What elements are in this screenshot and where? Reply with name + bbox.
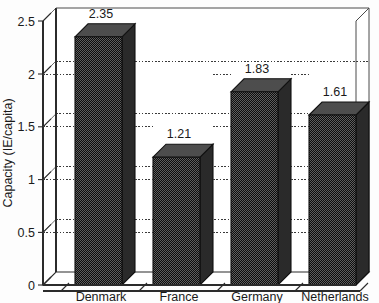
y-tick-label: 1 [28,173,35,187]
bar-value-label: 2.35 [89,7,113,21]
bar-group-denmark[interactable]: 2.35 [75,7,135,285]
bar-value-label: 1.61 [323,85,347,99]
bar-group-germany[interactable]: 1.83 [231,62,291,285]
y-tick-label: 0 [28,279,35,293]
y-tick-label: 1.5 [18,120,35,134]
bar-value-label: 1.21 [167,127,191,141]
y-tick-label: 2 [28,68,35,82]
x-category-label: France [160,290,199,303]
bar-value-label: 1.83 [245,62,269,76]
y-tick-label: 2.5 [18,15,35,29]
y-tick-label: 0.5 [18,226,35,240]
x-category-label: Netherlands [301,290,368,303]
bar-group-france[interactable]: 1.21 [153,127,213,285]
x-axis-category-labels: Denmark France Germany Netherlands [76,290,369,303]
x-category-label: Germany [231,290,283,303]
y-axis-tick-labels: 0 0.5 1 1.5 2 2.5 [18,15,35,293]
x-category-label: Denmark [76,290,127,303]
y-axis-title: Capacity (IE/capita) [1,98,15,207]
bar-chart-figure: 0 0.5 1 1.5 2 2.5 Capacity (IE/capita) 2… [0,0,379,303]
bar-group-netherlands[interactable]: 1.61 [309,85,369,285]
chart-screenshot: 0 0.5 1 1.5 2 2.5 Capacity (IE/capita) 2… [0,0,379,303]
